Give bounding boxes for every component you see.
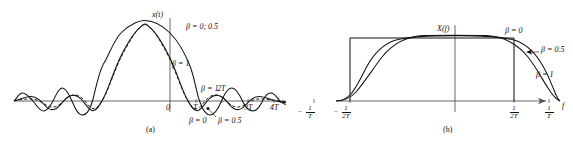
panel-a-caption: (a) [146, 126, 155, 134]
panel-b-y-axis-label: X(f) [437, 25, 449, 33]
curve-beta-05-panel-a [14, 24, 286, 109]
panel-a-y-axis-label: x(t) [152, 11, 163, 19]
figure-root: x(t) β = 0; 0.5 β = 1 β = 1 β = 0 β = 0.… [0, 0, 573, 145]
label-beta-05-tail: β = 0.5 [218, 117, 241, 125]
curve-beta-0-panel-b [350, 38, 514, 101]
minus-sign-1-2T: − [334, 109, 338, 116]
tick-label-3T: 3T [244, 104, 252, 112]
tick-label-T: T [193, 104, 197, 112]
label-beta-0-panel-b: β = 0 [505, 27, 522, 35]
label-beta-1-main: β = 1 [172, 60, 189, 68]
panel-a-plot [0, 0, 290, 145]
minus-sign-1T: − [298, 109, 302, 116]
tick-label-neg-1-over-2T: − 1 2T [339, 105, 353, 121]
label-beta-0-and-05-peak: β = 0; 0.5 [186, 23, 218, 31]
tick-label-neg-1-over-T: − 1 T [303, 105, 317, 121]
tick-label-2T: 2T [217, 85, 225, 93]
f-axis-label: f [562, 102, 564, 110]
curve-beta-1-panel-b [336, 35, 560, 101]
tick-label-pos-1-over-2T: 1 2T [507, 105, 521, 121]
tick-label-0: 0 [166, 104, 170, 112]
panel-b-plot [290, 0, 573, 145]
tick-label-4T: 4T [270, 104, 278, 112]
tick-label-pos-1-over-T: 1 T [542, 105, 556, 121]
label-beta-1-panel-b: β = 1 [536, 71, 553, 79]
curve-beta-05-panel-b [336, 36, 560, 101]
panel-b-caption: (b) [443, 126, 452, 134]
label-beta-1-tail: β = 1 [201, 85, 218, 93]
label-beta-05-panel-b: β = 0.5 [541, 46, 564, 54]
label-beta-0-tail: β = 0 [189, 117, 206, 125]
